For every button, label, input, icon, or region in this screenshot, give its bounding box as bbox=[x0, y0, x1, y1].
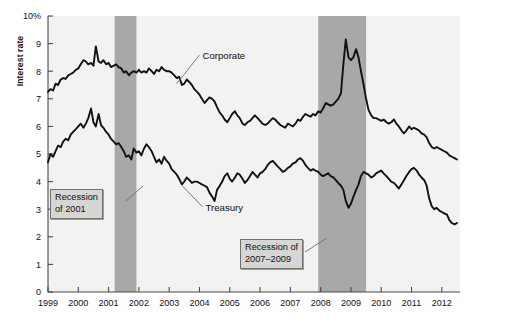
x-tick-label: 2002 bbox=[129, 298, 149, 308]
y-tick-label: 7 bbox=[36, 94, 41, 104]
y-tick-label: 9 bbox=[36, 39, 41, 49]
leader-corporate bbox=[177, 55, 200, 84]
y-tick-label: 4 bbox=[36, 177, 41, 187]
recession-2001-line1: Recession bbox=[55, 192, 98, 204]
recession-2001-callout: Recession of 2001 bbox=[50, 189, 103, 219]
series-label-corporate: Corporate bbox=[203, 50, 246, 61]
recession-2007-line2: 2007–2009 bbox=[245, 254, 298, 266]
annotation-leader-lines bbox=[126, 55, 327, 252]
leader-treasury bbox=[182, 185, 203, 206]
y-tick-label: 5 bbox=[36, 149, 41, 159]
chart-svg: 012345678910% 19992000200120022003200420… bbox=[0, 0, 519, 322]
x-tick-label: 2005 bbox=[220, 298, 240, 308]
chart-container: 012345678910% 19992000200120022003200420… bbox=[0, 0, 519, 322]
recession-2007-callout: Recession of 2007–2009 bbox=[240, 239, 303, 269]
y-tick-label: 10% bbox=[23, 11, 41, 21]
series-line-treasury bbox=[48, 108, 457, 224]
x-tick-label: 2009 bbox=[341, 298, 361, 308]
data-series bbox=[48, 39, 457, 224]
y-axis-tick-labels: 012345678910% bbox=[23, 11, 41, 297]
x-tick-label: 2012 bbox=[432, 298, 452, 308]
x-tick-label: 2000 bbox=[68, 298, 88, 308]
series-label-treasury: Treasury bbox=[206, 202, 244, 213]
y-tick-label: 8 bbox=[36, 67, 41, 77]
y-tick-label: 3 bbox=[36, 205, 41, 215]
x-tick-label: 2001 bbox=[99, 298, 119, 308]
y-tick-label: 0 bbox=[36, 287, 41, 297]
series-line-corporate bbox=[48, 39, 457, 159]
y-axis-title: Interest rate bbox=[15, 19, 25, 103]
x-tick-label: 2008 bbox=[311, 298, 331, 308]
y-tick-label: 6 bbox=[36, 122, 41, 132]
y-tick-label: 2 bbox=[36, 232, 41, 242]
recession-2007-line1: Recession of bbox=[245, 242, 298, 254]
recession-2001-line2: of 2001 bbox=[55, 204, 98, 216]
x-tick-label: 2006 bbox=[250, 298, 270, 308]
x-tick-label: 2011 bbox=[402, 298, 421, 308]
x-tick-label: 2003 bbox=[159, 298, 179, 308]
x-axis-tick-labels: 1999200020012002200320042005200620072008… bbox=[38, 298, 452, 308]
x-tick-label: 2007 bbox=[280, 298, 300, 308]
x-tick-label: 1999 bbox=[38, 298, 58, 308]
y-tick-label: 1 bbox=[36, 260, 41, 270]
x-tick-label: 2004 bbox=[189, 298, 209, 308]
x-tick-label: 2010 bbox=[371, 298, 391, 308]
